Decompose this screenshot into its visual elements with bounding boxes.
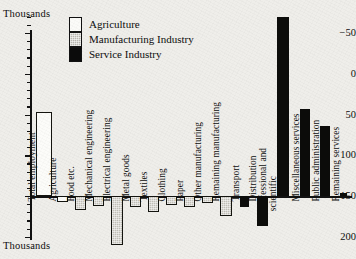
bar-category-label: Paper	[176, 180, 186, 202]
y-tick-minor	[27, 57, 31, 58]
bar-category-label: Agriculture	[49, 158, 59, 202]
agriculture-swatch	[69, 17, 82, 32]
y-tick-label: 200	[328, 232, 356, 243]
legend-item: Agriculture	[69, 17, 194, 32]
y-tick-minor	[27, 90, 31, 91]
y-tick-minor	[27, 98, 31, 99]
legend-item: Service Industry	[69, 47, 194, 62]
y-tick-minor	[27, 204, 31, 205]
y-tick-minor	[27, 123, 31, 124]
y-tick-major	[25, 237, 31, 238]
y-tick-minor	[27, 229, 31, 230]
y-tick-minor	[27, 106, 31, 107]
y-tick-label: 50	[328, 110, 356, 121]
service-swatch	[69, 47, 82, 62]
bar-category-label: Food etc.	[67, 166, 77, 202]
y-tick-minor	[27, 220, 31, 221]
y-tick-minor	[27, 41, 31, 42]
bar-category-label: Mechanical engineering	[85, 110, 95, 202]
y-tick-minor	[27, 49, 31, 50]
y-tick-minor	[27, 66, 31, 67]
legend-item-label: Service Industry	[89, 49, 161, 60]
bar	[277, 17, 289, 196]
bar-category-label: Remaining services	[332, 127, 342, 202]
bar-category-label: Textiles	[140, 171, 150, 201]
bar-category-label: Professional and scientific	[259, 148, 278, 211]
legend-item-label: Agriculture	[89, 19, 140, 30]
bar-category-label: Total employment	[28, 132, 38, 201]
y-tick-minor	[27, 212, 31, 213]
bar-category-label: Clothing	[158, 168, 168, 201]
y-tick-minor	[27, 17, 31, 18]
bar-category-label: Remaining manufacturing	[212, 102, 222, 202]
bar-category-label: Miscellaneous services	[292, 113, 302, 201]
legend: AgricultureManufacturing IndustryService…	[69, 17, 194, 62]
legend-item: Manufacturing Industry	[69, 32, 194, 47]
legend-item-label: Manufacturing Industry	[89, 34, 194, 45]
y-tick-major	[25, 115, 31, 116]
y-tick-major	[25, 33, 31, 34]
bar-category-label: Electrical engineering	[103, 118, 113, 202]
manufacturing-swatch	[69, 32, 82, 47]
employment-change-bar-chart: Thousands 200150100500−50 AgricultureMan…	[0, 0, 356, 259]
bar-category-label: Other manufacturing	[194, 122, 204, 202]
y-tick-minor	[27, 25, 31, 26]
y-axis-unit-caption-bottom: Thousands	[3, 240, 50, 251]
y-tick-minor	[27, 82, 31, 83]
bar	[111, 196, 123, 245]
y-tick-label: −50	[328, 28, 356, 39]
y-tick-label: 0	[328, 69, 356, 80]
bar-category-label: Public administration	[312, 120, 322, 202]
y-tick-major	[25, 74, 31, 75]
bar-category-label: Transport	[232, 165, 242, 202]
bar-category-label: Metal goods	[122, 154, 132, 201]
